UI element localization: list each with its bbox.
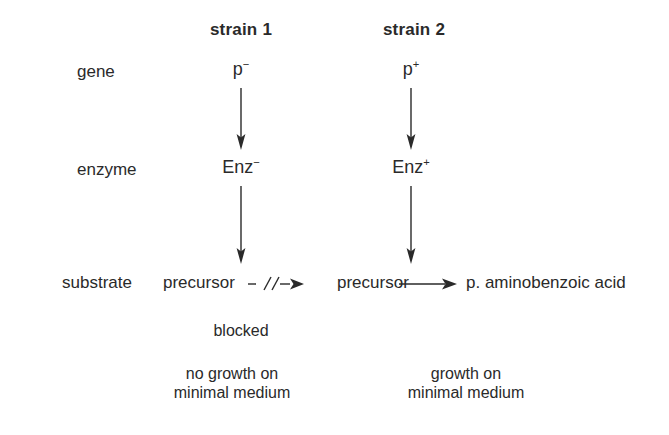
outcome-caption-strain-2-line-1: growth on (431, 365, 501, 382)
gene-symbol-strain-1: p− (233, 58, 250, 80)
down-arrow-icon-strain-1-enzyme-to-substrate (234, 186, 248, 264)
column-title-strain-2: strain 2 (383, 20, 445, 40)
blocked-arrow-icon-strain-1 (248, 274, 306, 294)
gene-symbol-strain-1-charge: − (243, 58, 250, 70)
right-arrow-icon-strain-2 (399, 274, 457, 294)
product-label-strain-2: p. aminobenzoic acid (466, 273, 626, 293)
outcome-caption-strain-1: no growth on minimal medium (174, 365, 290, 403)
outcome-caption-strain-2-line-2: minimal medium (408, 384, 524, 403)
substrate-label-strain-1: precursor (163, 273, 235, 293)
enzyme-symbol-strain-1-charge: − (253, 156, 260, 168)
enzyme-symbol-strain-2: Enz+ (392, 156, 430, 178)
outcome-caption-strain-1-line-1: no growth on (186, 365, 279, 382)
gene-symbol-strain-2-base: p (403, 59, 413, 79)
row-label-enzyme: enzyme (77, 160, 137, 180)
down-arrow-icon-strain-2-enzyme-to-substrate (404, 186, 418, 264)
blocked-caption-strain-1: blocked (213, 322, 268, 341)
gene-symbol-strain-2-charge: + (413, 58, 420, 70)
row-label-substrate: substrate (62, 273, 132, 293)
down-arrow-icon-strain-1-gene-to-enzyme (234, 88, 248, 150)
down-arrow-icon-strain-2-gene-to-enzyme (404, 88, 418, 150)
row-label-gene: gene (77, 62, 115, 82)
enzyme-symbol-strain-2-base: Enz (392, 157, 423, 177)
gene-symbol-strain-2: p+ (403, 58, 420, 80)
enzyme-symbol-strain-1: Enz− (222, 156, 260, 178)
outcome-caption-strain-1-line-2: minimal medium (174, 384, 290, 403)
column-title-strain-1: strain 1 (210, 20, 272, 40)
outcome-caption-strain-2: growth on minimal medium (408, 365, 524, 403)
enzyme-symbol-strain-1-base: Enz (222, 157, 253, 177)
enzyme-symbol-strain-2-charge: + (423, 156, 430, 168)
gene-symbol-strain-1-base: p (233, 59, 243, 79)
pathway-diagram: strain 1 strain 2 gene enzyme substrate … (0, 0, 669, 435)
